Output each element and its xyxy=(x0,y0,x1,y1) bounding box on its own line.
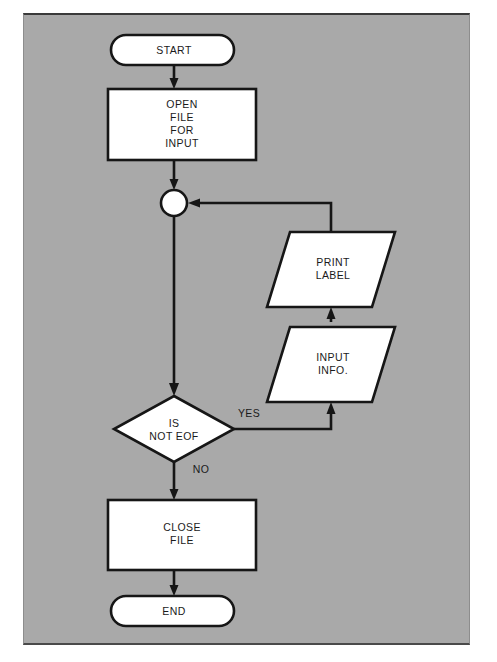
node-input-info-label-line2: INFO. xyxy=(318,364,348,376)
arrow-head-icon xyxy=(170,78,179,89)
node-start[interactable]: START xyxy=(111,35,234,65)
node-print-label-label-line2: LABEL xyxy=(316,269,351,281)
node-close-file-label-line2: FILE xyxy=(170,534,194,546)
edge-decision-no-to-close-file xyxy=(170,462,179,500)
node-decision[interactable]: IS NOT EOF xyxy=(114,396,234,462)
arrow-head-icon xyxy=(170,489,179,500)
arrow-head-icon xyxy=(188,199,200,208)
edge-input-info-to-print-label xyxy=(327,307,336,322)
node-input-info[interactable]: INPUT INFO. xyxy=(267,327,395,402)
flowchart-canvas: START OPEN FILE FOR INPUT PRINT LABEL IN… xyxy=(0,0,497,662)
node-end[interactable]: END xyxy=(111,596,234,626)
edge-label-yes: YES xyxy=(238,407,260,419)
node-print-label[interactable]: PRINT LABEL xyxy=(267,232,395,307)
node-open-file-label-line4: INPUT xyxy=(165,137,199,149)
edge-print-label-to-junction xyxy=(188,199,331,233)
edge-label-no: NO xyxy=(193,463,210,475)
node-junction[interactable] xyxy=(161,190,187,216)
node-print-label-label-line1: PRINT xyxy=(316,256,350,268)
node-open-file-label-line2: FILE xyxy=(170,111,194,123)
edge-close-file-to-end xyxy=(170,570,179,596)
node-end-label: END xyxy=(162,605,185,617)
flowchart-page: START OPEN FILE FOR INPUT PRINT LABEL IN… xyxy=(0,0,497,662)
node-open-file-label-line3: FOR xyxy=(170,124,193,136)
edge-open-file-to-junction xyxy=(170,160,179,190)
arrow-head-icon xyxy=(327,402,336,414)
arrow-head-icon xyxy=(327,307,336,319)
edge-start-to-open-file xyxy=(170,65,179,89)
arrow-head-icon xyxy=(169,383,179,396)
node-close-file-label-line1: CLOSE xyxy=(163,521,201,533)
node-open-file[interactable]: OPEN FILE FOR INPUT xyxy=(108,89,256,160)
arrow-head-icon xyxy=(170,179,179,190)
node-start-label: START xyxy=(156,44,192,56)
arrow-head-icon xyxy=(170,585,179,596)
node-decision-label-line2: NOT EOF xyxy=(149,430,198,442)
node-open-file-label-line1: OPEN xyxy=(166,98,197,110)
edge-junction-to-decision xyxy=(169,216,179,396)
node-decision-label-line1: IS xyxy=(169,417,180,429)
node-input-info-label-line1: INPUT xyxy=(316,351,350,363)
node-close-file[interactable]: CLOSE FILE xyxy=(108,500,256,570)
